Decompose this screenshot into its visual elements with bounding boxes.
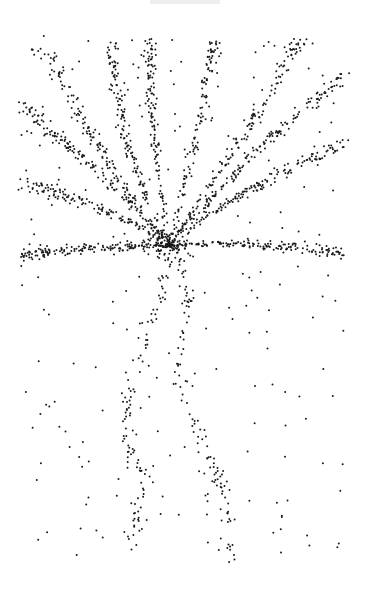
stipple-palm-tree-illustration xyxy=(0,0,365,593)
